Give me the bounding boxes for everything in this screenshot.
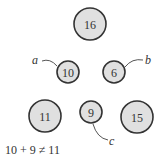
node-11-label: 11 — [39, 110, 51, 124]
inequality-caption: 10 + 9 ≠ 11 — [5, 143, 60, 157]
pointer-a: a — [32, 53, 57, 67]
node-15: 15 — [121, 101, 153, 133]
pointer-c-line — [93, 124, 108, 140]
node-9-label: 9 — [88, 106, 94, 120]
node-16: 16 — [74, 8, 106, 40]
diagram-canvas: 16 10 6 11 9 15 a b c 10 + 9 ≠ 11 — [0, 0, 161, 158]
node-10-label: 10 — [62, 66, 74, 80]
node-6: 6 — [103, 61, 125, 83]
node-16-label: 16 — [84, 18, 96, 32]
pointer-b: b — [125, 53, 151, 67]
pointer-c-label: c — [109, 134, 115, 148]
pointer-a-label: a — [32, 53, 38, 67]
pointer-b-label: b — [145, 53, 151, 67]
node-10: 10 — [57, 61, 79, 83]
pointer-c: c — [93, 124, 115, 148]
node-15-label: 15 — [131, 111, 143, 125]
node-9: 9 — [80, 101, 102, 123]
node-6-label: 6 — [111, 66, 117, 80]
node-11: 11 — [29, 100, 61, 132]
pointer-b-line — [125, 60, 143, 67]
pointer-a-line — [42, 60, 57, 66]
